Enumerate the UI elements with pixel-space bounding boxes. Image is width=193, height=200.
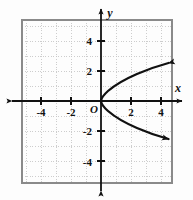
coordinate-plane-figure: -4 -2 2 4 4 2 -2 -4 O x y <box>0 0 193 200</box>
y-axis-label: y <box>105 6 113 20</box>
figure-background <box>0 0 193 200</box>
x-tick-label-pos4: 4 <box>158 106 164 118</box>
x-axis-label: x <box>174 81 181 95</box>
origin-label: O <box>90 103 98 115</box>
graph-svg: -4 -2 2 4 4 2 -2 -4 O x y <box>0 0 193 200</box>
x-tick-label-neg4: -4 <box>36 106 46 118</box>
y-tick-label-neg4: -4 <box>83 156 93 168</box>
y-tick-label-pos4: 4 <box>87 35 93 47</box>
y-tick-label-pos2: 2 <box>87 65 93 77</box>
y-tick-label-neg2: -2 <box>83 125 93 137</box>
x-tick-label-pos2: 2 <box>128 106 134 118</box>
x-tick-label-neg2: -2 <box>66 106 76 118</box>
